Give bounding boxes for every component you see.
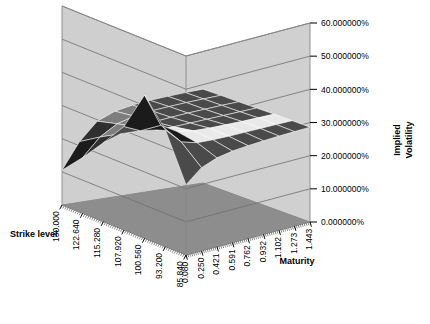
strike-tick-label: 107.920 bbox=[113, 236, 123, 267]
strike-tick-label: 122.640 bbox=[71, 219, 81, 250]
strike-tick-label: 115.280 bbox=[92, 228, 102, 258]
volatility-axis-title: ImpliedVolatility bbox=[392, 122, 414, 159]
maturity-tick-label: 0.080 bbox=[180, 261, 190, 283]
z-tick-label: 30.000000% bbox=[321, 118, 369, 128]
z-tick-label: 40.000000% bbox=[321, 85, 369, 95]
z-axis-tick-labels: 60.000000%50.000000%40.000000%30.000000%… bbox=[321, 18, 369, 227]
z-tick-label: 60.000000% bbox=[321, 18, 369, 28]
strike-tick-label: 93.200 bbox=[154, 253, 164, 279]
strike-axis-title: Strike level bbox=[10, 229, 58, 239]
z-tick-label: 20.000000% bbox=[321, 151, 369, 161]
z-tick-label: 50.000000% bbox=[321, 51, 369, 61]
maturity-tick-label: 1.273 bbox=[289, 233, 299, 255]
maturity-tick-label: 0.250 bbox=[196, 257, 206, 279]
z-axis-tickmarks bbox=[310, 23, 317, 222]
strike-tick-label: 100.560 bbox=[133, 244, 143, 275]
maturity-axis-title: Maturity bbox=[279, 256, 314, 266]
z-tick-label: 10.000000% bbox=[321, 184, 369, 194]
chart-canvas: 60.000000%50.000000%40.000000%30.000000%… bbox=[0, 0, 430, 324]
z-tick-label: 0.000000% bbox=[321, 217, 364, 227]
maturity-tick-label: 0.762 bbox=[242, 245, 252, 267]
maturity-tick-label: 0.932 bbox=[258, 241, 268, 263]
volatility-axis-title-line: Implied bbox=[392, 124, 402, 156]
maturity-tick-label: 1.102 bbox=[273, 237, 283, 259]
maturity-tick-label: 0.421 bbox=[211, 253, 221, 275]
maturity-tick-label: 0.591 bbox=[227, 249, 237, 271]
volatility-axis-title-line: Volatility bbox=[404, 122, 414, 159]
maturity-tick-label: 1.443 bbox=[304, 228, 314, 250]
implied-volatility-surface-chart: 60.000000%50.000000%40.000000%30.000000%… bbox=[0, 0, 430, 324]
